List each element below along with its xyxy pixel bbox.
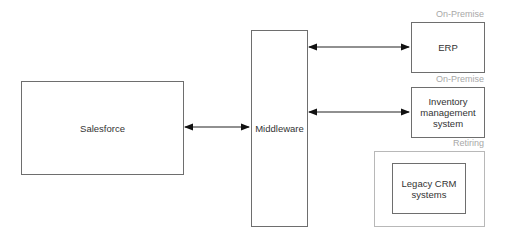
tag-retiring: Retiring	[404, 138, 484, 148]
node-inventory[interactable]: Inventory management system	[411, 87, 485, 138]
node-middleware[interactable]: Middleware	[251, 30, 308, 227]
node-label: Inventory management system	[418, 96, 478, 129]
node-salesforce[interactable]: Salesforce	[21, 81, 184, 175]
node-label: Salesforce	[80, 123, 125, 134]
node-label: Middleware	[255, 123, 304, 134]
node-erp[interactable]: ERP	[411, 22, 485, 73]
node-label: ERP	[438, 42, 458, 53]
tag-on-premise-erp: On-Premise	[404, 9, 484, 19]
node-legacy-crm[interactable]: Legacy CRM systems	[392, 163, 466, 214]
tag-on-premise-inventory: On-Premise	[404, 74, 484, 84]
node-label: Legacy CRM systems	[399, 178, 459, 200]
